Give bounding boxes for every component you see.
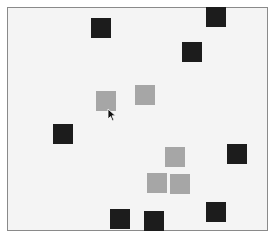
dark-square[interactable]	[182, 42, 202, 62]
dark-square[interactable]	[53, 124, 73, 144]
mouse-pointer-icon	[107, 108, 119, 122]
dark-square[interactable]	[91, 18, 111, 38]
dark-square[interactable]	[227, 144, 247, 164]
light-square[interactable]	[165, 147, 185, 167]
dark-square[interactable]	[206, 7, 226, 27]
light-square[interactable]	[170, 174, 190, 194]
game-board[interactable]	[7, 7, 268, 231]
light-square[interactable]	[135, 85, 155, 105]
dark-square[interactable]	[110, 209, 130, 229]
light-square[interactable]	[147, 173, 167, 193]
dark-square[interactable]	[144, 211, 164, 231]
dark-square[interactable]	[206, 202, 226, 222]
